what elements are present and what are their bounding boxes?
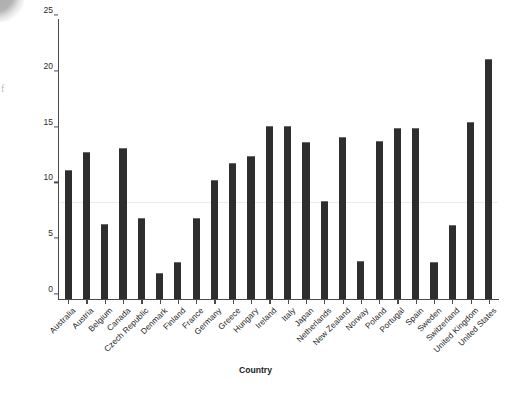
y-axis-tick-label: 5: [35, 228, 53, 238]
y-axis-tick-mark: [54, 14, 58, 15]
bar: [229, 163, 236, 299]
y-axis-tick: 20: [35, 66, 53, 76]
y-axis-tick-mark: [54, 238, 58, 239]
y-axis-tick-mark: [54, 70, 58, 71]
bar: [193, 218, 200, 299]
y-axis-tick-mark: [54, 182, 58, 183]
bar: [467, 122, 474, 299]
bar-chart: Percentage of Children Living in Househo…: [0, 0, 511, 394]
bar: [65, 170, 72, 299]
y-axis-tick-label: 20: [35, 61, 53, 71]
y-axis-tick: 25: [35, 10, 53, 20]
x-axis-tick-mark: [105, 300, 106, 304]
bar: [376, 141, 383, 299]
bar: [302, 142, 309, 299]
x-axis-tick-mark: [434, 300, 435, 304]
x-axis-tick-mark: [452, 300, 453, 304]
x-axis-tick-mark: [324, 300, 325, 304]
x-axis-tick-mark: [361, 300, 362, 304]
y-axis-tick-label: 10: [35, 172, 53, 182]
y-axis-tick-mark: [54, 126, 58, 127]
x-axis-tick-mark: [269, 300, 270, 304]
y-axis-tick-label: 25: [35, 5, 53, 15]
bar: [339, 137, 346, 299]
y-axis-tick: 10: [35, 177, 53, 187]
plot-area: 0510152025: [59, 20, 498, 299]
x-axis-tick-mark: [251, 300, 252, 304]
bar: [138, 218, 145, 299]
x-axis-tick-mark: [379, 300, 380, 304]
bar: [412, 128, 419, 299]
bar: [101, 224, 108, 299]
x-axis-tick-mark: [343, 300, 344, 304]
x-axis-tick-mark: [288, 300, 289, 304]
y-axis-tick: 15: [35, 122, 53, 132]
x-axis-tick-mark: [397, 300, 398, 304]
y-axis-tick: 5: [35, 233, 53, 243]
bar: [284, 126, 291, 299]
bar: [211, 180, 218, 299]
bar: [394, 128, 401, 299]
x-axis-tick-mark: [489, 300, 490, 304]
bar: [247, 156, 254, 299]
bar: [430, 262, 437, 299]
x-axis-tick-mark: [178, 300, 179, 304]
x-axis-tick-mark: [233, 300, 234, 304]
x-axis-tick-mark: [123, 300, 124, 304]
bar: [266, 126, 273, 299]
bar: [83, 152, 90, 299]
y-axis-tick-label: 15: [35, 117, 53, 127]
x-axis-tick-mark: [160, 300, 161, 304]
x-axis-title: Country: [0, 365, 511, 375]
bar: [321, 201, 328, 299]
x-axis-tick-mark: [141, 300, 142, 304]
x-axis-tick-mark: [86, 300, 87, 304]
y-axis-tick: 0: [35, 289, 53, 299]
y-axis-tick-label: 0: [35, 284, 53, 294]
y-axis-tick-mark: [54, 293, 58, 294]
x-axis-tick-mark: [306, 300, 307, 304]
bar: [485, 59, 492, 299]
x-axis-tick-mark: [471, 300, 472, 304]
bar: [174, 262, 181, 299]
bar: [119, 148, 126, 299]
bar: [449, 225, 456, 299]
bar: [357, 261, 364, 299]
x-axis-tick-mark: [416, 300, 417, 304]
x-axis-tick-mark: [196, 300, 197, 304]
x-axis-tick-mark: [68, 300, 69, 304]
bar: [156, 273, 163, 299]
x-axis-tick-mark: [214, 300, 215, 304]
